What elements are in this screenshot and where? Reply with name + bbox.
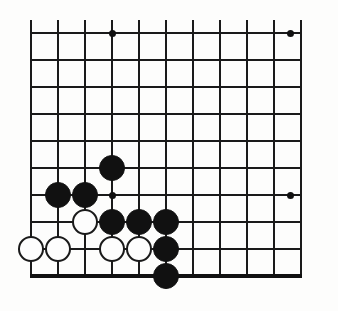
star-point-upper-right [287,30,294,37]
black-stone-e7 [126,209,152,235]
black-stone-d7 [99,209,125,235]
go-board-figure [0,0,338,311]
grid-line-horizontal-3 [30,113,302,115]
star-point-upper-left [109,30,116,37]
grid-line-horizontal-1 [30,59,302,61]
black-stone-f9 [153,263,179,289]
black-stone-b6 [45,182,71,208]
white-stone-d8 [99,236,125,262]
grid-line-horizontal-2 [30,86,302,88]
black-stone-f8 [153,236,179,262]
white-stone-e8 [126,236,152,262]
grid-line-horizontal-0 [30,32,302,34]
black-stone-f7 [153,209,179,235]
go-board-grid [0,0,338,311]
black-stone-d5 [99,155,125,181]
grid-line-horizontal-4 [30,140,302,142]
white-stone-a8 [18,236,44,262]
black-stone-c6 [72,182,98,208]
grid-line-horizontal-5 [30,167,302,169]
star-point-lower-left [109,192,116,199]
white-stone-b8 [45,236,71,262]
star-point-lower-right [287,192,294,199]
white-stone-c7 [72,209,98,235]
